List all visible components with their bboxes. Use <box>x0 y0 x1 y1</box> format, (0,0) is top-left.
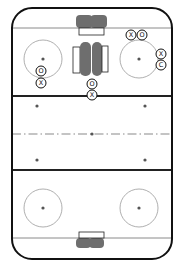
bench-left-box <box>73 47 80 73</box>
player-marker-defense: O <box>36 66 46 76</box>
player-marker-offense: X <box>156 49 166 59</box>
bottom-goal-crease-left <box>76 238 91 248</box>
player-label: O <box>89 80 94 88</box>
neutral-zone-dot <box>143 158 146 161</box>
faceoff-dot-top-left <box>41 57 44 60</box>
player-marker-offense: X <box>126 30 136 40</box>
player-label: C <box>159 61 164 69</box>
top-goal-crease-left <box>76 15 93 28</box>
faceoff-dot-bottom-right <box>137 206 140 209</box>
neutral-zone-dot <box>35 158 38 161</box>
player-marker-coach: C <box>156 60 166 70</box>
player-marker-defense: O <box>137 30 147 40</box>
bottom-goal-net <box>79 232 104 238</box>
player-label: X <box>39 79 44 87</box>
equipment-right <box>92 42 102 76</box>
player-label: X <box>90 91 95 99</box>
neutral-zone-dot <box>90 132 93 135</box>
player-label: X <box>129 31 134 39</box>
player-label: O <box>139 31 144 39</box>
player-label: X <box>159 50 164 58</box>
bottom-goal-crease-right <box>89 238 104 248</box>
neutral-zone-dot <box>143 104 146 107</box>
player-marker-offense: X <box>36 78 46 88</box>
rink-diagram: XOXCOXOX <box>0 0 177 269</box>
neutral-zone-dot <box>35 104 38 107</box>
faceoff-dot-bottom-left <box>41 206 44 209</box>
bench-right-box <box>102 46 108 72</box>
goals-and-equipment <box>73 15 108 248</box>
rink-canvas: XOXCOXOX <box>0 0 177 269</box>
top-goal-net <box>79 28 104 35</box>
faceoff-dot-top-right <box>137 57 140 60</box>
player-marker-defense: O <box>87 79 97 89</box>
top-goal-crease-right <box>91 15 108 28</box>
player-label: O <box>38 67 43 75</box>
equipment-left <box>80 42 91 76</box>
player-marker-offense: X <box>87 90 97 100</box>
